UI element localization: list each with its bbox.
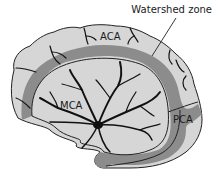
label-watershed-zone: Watershed zone — [131, 4, 212, 15]
mca-territory — [32, 58, 169, 155]
label-mca: MCA — [60, 100, 83, 111]
brain-diagram: Watershed zone ACA MCA PCA — [0, 0, 214, 177]
label-aca: ACA — [100, 31, 121, 42]
label-pca: PCA — [173, 114, 193, 125]
